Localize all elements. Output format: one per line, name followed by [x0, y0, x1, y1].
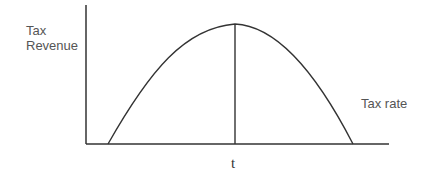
- y-axis-label: Tax Revenue: [26, 23, 78, 53]
- y-axis-label-line1: Tax: [26, 23, 78, 38]
- x-tick-t: t: [231, 156, 235, 171]
- y-axis-label-line2: Revenue: [26, 38, 78, 53]
- x-axis-label: Tax rate: [361, 96, 407, 111]
- laffer-curve: [108, 24, 353, 144]
